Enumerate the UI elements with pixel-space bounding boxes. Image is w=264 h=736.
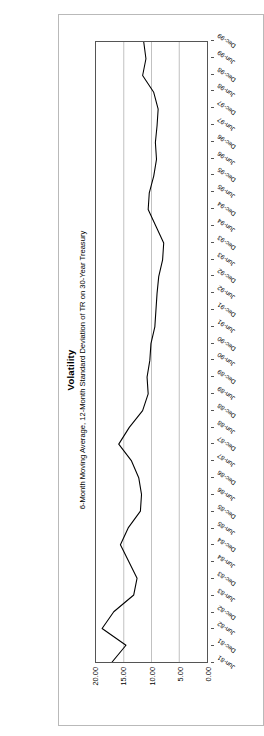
x-axis-tick-mark xyxy=(211,612,214,613)
x-axis-tick-mark xyxy=(211,410,214,411)
x-axis-tick-mark xyxy=(211,427,214,428)
x-axis-tick-mark xyxy=(211,124,214,125)
x-axis-tick-label: Jun-85 xyxy=(216,520,236,537)
y-axis-tick-label: 20.00 xyxy=(91,667,100,721)
x-axis-tick-label: Jun-95 xyxy=(216,184,236,201)
x-axis-tick-label: Jun-82 xyxy=(216,621,236,638)
x-axis-tick-label: Dec-97 xyxy=(216,100,237,118)
plot-svg xyxy=(96,42,207,662)
x-axis-tick-mark xyxy=(211,74,214,75)
x-axis-tick-label: Jun-93 xyxy=(216,251,236,268)
x-axis-tick-label: Dec-94 xyxy=(216,200,237,218)
x-axis-tick-mark xyxy=(211,225,214,226)
x-axis-tick-mark xyxy=(211,662,214,663)
chart-outer-frame: Volatility 6-Month Moving Average, 12-Mo… xyxy=(58,14,240,726)
x-axis-tick-mark xyxy=(211,158,214,159)
x-axis-tick-label: Dec-99 xyxy=(216,32,237,50)
x-axis-tick-label: Jun-84 xyxy=(216,553,236,570)
chart-title: Volatility xyxy=(65,15,76,725)
x-axis-tick-label: Dec-85 xyxy=(216,503,237,521)
x-axis-tick-label: Dec-81 xyxy=(216,637,237,655)
x-axis-tick-mark xyxy=(211,141,214,142)
x-axis-tick-label: Dec-88 xyxy=(216,402,237,420)
x-axis-tick-mark xyxy=(211,242,214,243)
x-axis-tick-label: Jun-97 xyxy=(216,116,236,133)
x-axis-tick-mark xyxy=(211,40,214,41)
x-axis-tick-label: Jun-96 xyxy=(216,150,236,167)
x-axis-tick-label: Jun-98 xyxy=(216,83,236,100)
x-axis-tick-label: Dec-89 xyxy=(216,368,237,386)
x-axis-tick-mark xyxy=(211,561,214,562)
x-axis-tick-label: Jun-89 xyxy=(216,385,236,402)
x-axis-tick-mark xyxy=(211,208,214,209)
x-axis-tick-label: Dec-93 xyxy=(216,234,237,252)
x-axis-tick-label: Jun-91 xyxy=(216,318,236,335)
x-axis-tick-mark xyxy=(211,90,214,91)
x-axis-tick-mark xyxy=(211,343,214,344)
x-axis-tick-label: Dec-83 xyxy=(216,570,237,588)
x-axis-tick-mark xyxy=(211,57,214,58)
x-axis-tick-label: Dec-92 xyxy=(216,268,237,286)
plot-area xyxy=(95,41,208,663)
x-axis-tick-label: Jun-90 xyxy=(216,352,236,369)
x-axis-tick-mark xyxy=(211,494,214,495)
x-axis-labels: Jun-81Dec-81Jun-82Dec-82Jun-83Dec-83Jun-… xyxy=(211,41,240,663)
x-axis-tick-mark xyxy=(211,544,214,545)
x-axis-tick-label: Jun-81 xyxy=(216,654,236,671)
x-axis-tick-label: Jun-92 xyxy=(216,284,236,301)
x-axis-tick-mark xyxy=(211,292,214,293)
y-axis-tick-label: 15.00 xyxy=(119,667,128,721)
data-line-volatility xyxy=(102,42,164,662)
x-axis-tick-mark xyxy=(211,275,214,276)
x-axis-tick-mark xyxy=(211,393,214,394)
chart-subtitle: 6-Month Moving Average, 12-Month Standar… xyxy=(78,15,87,725)
y-axis-tick-label: 10.00 xyxy=(147,667,156,721)
x-axis-tick-mark xyxy=(211,628,214,629)
x-axis-tick-label: Dec-96 xyxy=(216,133,237,151)
x-axis-tick-label: Dec-84 xyxy=(216,537,237,555)
x-axis-tick-mark xyxy=(211,309,214,310)
x-axis-tick-mark xyxy=(211,528,214,529)
y-axis-tick-label: 0.00 xyxy=(204,667,213,721)
chart-canvas: Volatility 6-Month Moving Average, 12-Mo… xyxy=(40,0,240,736)
x-axis-tick-mark xyxy=(211,578,214,579)
x-axis-tick-label: Jun-99 xyxy=(216,49,236,66)
x-axis-tick-label: Jun-94 xyxy=(216,217,236,234)
x-axis-tick-mark xyxy=(211,175,214,176)
x-axis-tick-label: Dec-86 xyxy=(216,469,237,487)
x-axis-tick-label: Jun-86 xyxy=(216,486,236,503)
x-axis-tick-mark xyxy=(211,326,214,327)
x-axis-tick-mark xyxy=(211,595,214,596)
x-axis-tick-label: Jun-87 xyxy=(216,453,236,470)
x-axis-tick-label: Dec-91 xyxy=(216,301,237,319)
x-axis-tick-mark xyxy=(211,191,214,192)
x-axis-tick-mark xyxy=(211,107,214,108)
x-axis-tick-mark xyxy=(211,376,214,377)
x-axis-tick-label: Jun-88 xyxy=(216,419,236,436)
y-axis-tick-label: 5.00 xyxy=(175,667,184,721)
x-axis-tick-mark xyxy=(211,359,214,360)
x-axis-tick-mark xyxy=(211,645,214,646)
x-axis-tick-mark xyxy=(211,259,214,260)
x-axis-tick-mark xyxy=(211,460,214,461)
x-axis-tick-mark xyxy=(211,511,214,512)
x-axis-tick-mark xyxy=(211,443,214,444)
x-axis-tick-label: Jun-83 xyxy=(216,587,236,604)
x-axis-tick-mark xyxy=(211,477,214,478)
